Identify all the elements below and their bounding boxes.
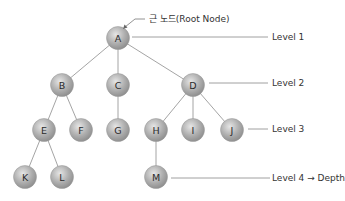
node-C: C <box>107 74 130 97</box>
node-E: E <box>33 119 56 142</box>
node-K: K <box>14 166 37 189</box>
node-G: G <box>107 119 130 142</box>
node-label: J <box>230 125 234 136</box>
level-1-label: Level 1 <box>272 32 304 42</box>
node-D: D <box>182 74 205 97</box>
node-label: L <box>59 172 65 183</box>
node-L: L <box>51 166 74 189</box>
node-M: M <box>145 166 168 189</box>
node-label: K <box>22 172 29 183</box>
node-label: D <box>189 80 196 91</box>
node-B: B <box>51 74 74 97</box>
node-label: E <box>41 125 47 136</box>
node-I: I <box>182 119 205 142</box>
root-pointer-arrow <box>125 19 145 27</box>
node-label: A <box>115 33 122 44</box>
node-label: M <box>152 172 160 183</box>
level-4-label: Level 4 → Depth <box>272 173 345 183</box>
node-H: H <box>145 119 168 142</box>
node-label: H <box>152 125 159 136</box>
node-F: F <box>70 119 93 142</box>
node-A: A <box>107 27 130 50</box>
node-label: C <box>115 80 122 91</box>
level-2-label: Level 2 <box>272 78 304 88</box>
root-node-annotation: 근 노드(Root Node) <box>149 14 230 24</box>
tree-diagram: Level 1Level 2Level 3Level 4 → Depth ABC… <box>0 0 345 201</box>
node-label: B <box>59 80 66 91</box>
node-J: J <box>221 119 244 142</box>
node-label: F <box>78 125 83 136</box>
edge-A-D <box>118 38 193 85</box>
node-label: G <box>114 125 121 136</box>
level-3-label: Level 3 <box>272 124 304 134</box>
node-label: I <box>192 125 195 136</box>
